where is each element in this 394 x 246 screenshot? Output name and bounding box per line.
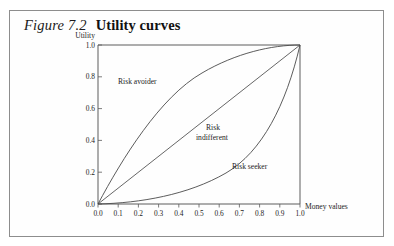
risk-avoider-label: Risk avoider bbox=[118, 77, 157, 86]
x-tick-label: 0.5 bbox=[194, 209, 204, 218]
risk-indifferent-line bbox=[98, 45, 300, 204]
y-tick-label: 0.8 bbox=[86, 72, 96, 81]
figure-frame: Figure 7.2Utility curves Utility Money v… bbox=[9, 10, 384, 237]
y-tick-label: 0.6 bbox=[86, 104, 96, 113]
y-axis-tick-labels: 1.0 0.8 0.6 0.4 0.2 0.0 bbox=[86, 41, 96, 209]
x-tick-label: 0.6 bbox=[215, 209, 225, 218]
x-tick-label: 0.9 bbox=[275, 209, 285, 218]
x-tick-label: 0.0 bbox=[93, 209, 103, 218]
y-tick-label: 0.0 bbox=[86, 200, 96, 209]
x-tick-label: 0.4 bbox=[174, 209, 184, 218]
y-tick-label: 0.4 bbox=[86, 136, 96, 145]
x-tick-label: 0.3 bbox=[154, 209, 164, 218]
utility-curves-plot: Utility Money values 1.0 0.8 0.6 0.4 0.2… bbox=[10, 11, 385, 238]
x-tick-label: 0.8 bbox=[255, 209, 265, 218]
y-tick-label: 0.2 bbox=[86, 168, 96, 177]
y-tick-label: 1.0 bbox=[86, 41, 96, 50]
risk-indifferent-label-line2: indifferent bbox=[196, 133, 229, 142]
x-axis-title: Money values bbox=[305, 202, 348, 211]
risk-indifferent-label-line1: Risk bbox=[206, 123, 220, 132]
risk-seeker-label: Risk seeker bbox=[232, 162, 268, 171]
x-tick-label: 0.2 bbox=[134, 209, 144, 218]
y-axis-ticks bbox=[98, 45, 102, 204]
x-tick-label: 0.1 bbox=[114, 209, 124, 218]
x-axis-ticks bbox=[98, 204, 300, 208]
x-tick-label: 0.7 bbox=[235, 209, 245, 218]
x-axis-tick-labels: 0.0 0.1 0.2 0.3 0.4 0.5 0.6 0.7 0.8 0.9 … bbox=[93, 209, 305, 218]
x-tick-label: 1.0 bbox=[295, 209, 305, 218]
y-axis-title: Utility bbox=[75, 31, 95, 40]
